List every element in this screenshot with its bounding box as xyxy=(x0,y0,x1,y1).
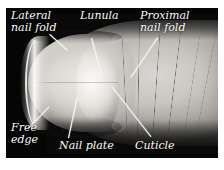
label-lunula: Lunula xyxy=(80,10,119,22)
label-cuticle: Cuticle xyxy=(135,140,175,152)
finger-top-shadow xyxy=(46,14,218,40)
label-nail-plate: Nail plate xyxy=(59,140,114,152)
label-proximal-nail-fold: Proximal nail fold xyxy=(140,10,190,33)
free-edge-highlight xyxy=(25,41,43,125)
label-lateral-nail-fold: Lateral nail fold xyxy=(11,10,56,33)
figure-anatomy-fingernail: Lateral nail fold Lunula Proximal nail f… xyxy=(0,0,224,170)
label-free-edge: Free edge xyxy=(11,122,38,145)
